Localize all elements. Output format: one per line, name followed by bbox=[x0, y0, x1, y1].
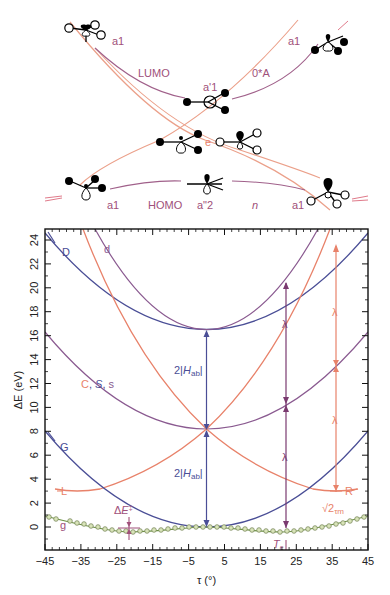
label-n: n bbox=[252, 199, 258, 211]
energy-chart: D d C, S, s G L R g 2|Hab| 2|Hab| λ λ λ … bbox=[12, 229, 374, 586]
label-g: g bbox=[60, 519, 66, 531]
svg-text:45: 45 bbox=[362, 555, 374, 567]
label-lambda-purple-lower: λ bbox=[282, 451, 288, 463]
svg-text:8: 8 bbox=[28, 428, 40, 434]
svg-text:12: 12 bbox=[28, 377, 40, 389]
label-bottom-left-a1: a1 bbox=[107, 199, 119, 211]
label-bottom-right-a1: a1 bbox=[292, 199, 304, 211]
figure: a1 a1 LUMO 0*A a'1 e a1 HOMO a"2 n a1 bbox=[0, 0, 390, 595]
svg-text:15: 15 bbox=[254, 555, 266, 567]
molecule-e-right-icon bbox=[216, 129, 261, 154]
label-e: e bbox=[205, 136, 211, 148]
svg-text:35: 35 bbox=[326, 555, 338, 567]
x-axis-label: τ (°) bbox=[197, 574, 216, 586]
svg-text:18: 18 bbox=[28, 306, 40, 318]
label-homo: HOMO bbox=[148, 199, 183, 211]
curve-D bbox=[45, 233, 368, 330]
edge-tick-left bbox=[45, 196, 62, 198]
svg-text:2: 2 bbox=[28, 500, 40, 506]
label-top-left-a1: a1 bbox=[112, 35, 124, 47]
label-C-S-s: C, S, s bbox=[81, 378, 115, 390]
label-L: L bbox=[61, 485, 67, 497]
arrow-2Hab-upper bbox=[204, 330, 210, 430]
arrow-lambda-orange bbox=[330, 244, 342, 492]
y-tick-labels: 0 2 4 6 8 10 12 14 16 18 20 22 24 bbox=[28, 234, 40, 530]
label-top-right-a1: a1 bbox=[288, 35, 300, 47]
svg-text:10: 10 bbox=[28, 401, 40, 413]
arrow-delta-E-barrier bbox=[118, 517, 140, 540]
svg-text:25: 25 bbox=[290, 555, 302, 567]
y-axis-label: ΔE (eV) bbox=[12, 371, 24, 410]
svg-text:14: 14 bbox=[28, 353, 40, 365]
svg-text:16: 16 bbox=[28, 330, 40, 342]
label-zero-star-A: 0*A bbox=[252, 67, 270, 79]
orange-diabatic-curve-left bbox=[70, 22, 330, 210]
curve-d bbox=[95, 229, 318, 330]
label-2Hab-lower: 2|Hab| bbox=[174, 467, 203, 481]
svg-text:5: 5 bbox=[221, 555, 227, 567]
label-lambda-orange-upper: λ bbox=[332, 306, 338, 318]
orange-curve-left-to-right bbox=[95, 48, 320, 178]
label-D: D bbox=[62, 246, 70, 258]
svg-text:20: 20 bbox=[28, 282, 40, 294]
x-tick-labels: −45 −35 −25 −15 −5 5 15 25 35 45 bbox=[36, 555, 374, 567]
curve-R bbox=[83, 229, 358, 491]
label-a1-prime: a'1 bbox=[203, 81, 217, 93]
svg-text:0: 0 bbox=[28, 524, 40, 530]
label-lumo: LUMO bbox=[138, 67, 170, 79]
label-sqrt2-tau-m: √2τm bbox=[322, 502, 344, 516]
svg-text:−35: −35 bbox=[72, 555, 91, 567]
label-2Hab-upper: 2|Hab| bbox=[174, 364, 203, 378]
label-d: d bbox=[104, 243, 110, 255]
svg-text:22: 22 bbox=[28, 258, 40, 270]
label-a2-double-prime: a"2 bbox=[197, 199, 213, 211]
molecule-top-left-icon bbox=[65, 21, 105, 42]
molecule-bottom-left-icon bbox=[65, 175, 106, 200]
label-delta-E-barrier: ΔE‡ bbox=[114, 504, 133, 516]
label-R: R bbox=[345, 485, 353, 497]
molecule-bottom-right-icon bbox=[307, 178, 349, 208]
label-lambda-purple-upper: λ bbox=[282, 318, 288, 330]
molecule-top-right-icon bbox=[133, 0, 348, 55]
svg-text:−5: −5 bbox=[182, 555, 195, 567]
svg-text:−15: −15 bbox=[143, 555, 162, 567]
label-lambda-orange-lower: λ bbox=[332, 414, 338, 426]
molecule-e-left-icon bbox=[156, 130, 202, 154]
svg-text:−45: −45 bbox=[36, 555, 55, 567]
svg-text:4: 4 bbox=[28, 476, 40, 482]
homo-curve-left bbox=[110, 181, 181, 189]
edge-tick-right bbox=[352, 196, 368, 199]
orbital-correlation-diagram: a1 a1 LUMO 0*A a'1 e a1 HOMO a"2 n a1 bbox=[45, 0, 368, 211]
arrow-2Hab-lower bbox=[204, 430, 210, 527]
svg-text:−25: −25 bbox=[107, 555, 126, 567]
svg-text:24: 24 bbox=[28, 234, 40, 246]
molecule-a2-double-prime-icon bbox=[187, 174, 223, 194]
curve-L bbox=[55, 229, 330, 491]
label-G: G bbox=[60, 441, 69, 453]
lumo-curve-right bbox=[232, 44, 318, 99]
svg-text:6: 6 bbox=[28, 452, 40, 458]
